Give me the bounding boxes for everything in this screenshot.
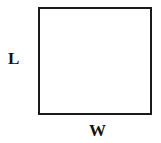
width-label: W bbox=[89, 122, 106, 139]
rectangle-shape bbox=[38, 7, 152, 115]
length-label: L bbox=[8, 50, 19, 67]
